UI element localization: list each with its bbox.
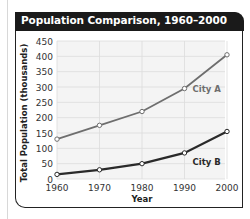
series-label: City A <box>193 84 222 94</box>
y-tick-label: 250 <box>36 98 53 108</box>
data-point-marker <box>140 161 144 165</box>
data-point-marker <box>55 137 59 141</box>
data-point-marker <box>182 151 186 155</box>
x-tick-label: 1970 <box>88 183 111 193</box>
y-tick-label: 450 <box>36 37 53 47</box>
y-tick-label: 350 <box>36 67 53 77</box>
y-tick-label: 300 <box>36 83 53 93</box>
y-tick-label: 100 <box>36 144 53 154</box>
x-axis-label: Year <box>130 194 153 204</box>
data-point-marker <box>182 86 186 90</box>
data-point-marker <box>55 172 59 176</box>
y-tick-label: 150 <box>36 129 53 139</box>
line-chart: 0501001502002503003504004501960197019801… <box>0 0 250 219</box>
y-axis-label: Total Population (thousands) <box>19 44 29 183</box>
y-tick-label: 200 <box>36 113 53 123</box>
series-label: City B <box>193 157 221 167</box>
x-tick-label: 1980 <box>131 183 154 193</box>
y-tick-label: 50 <box>42 159 54 169</box>
data-point-marker <box>140 109 144 113</box>
data-point-marker <box>97 123 101 127</box>
data-point-marker <box>225 53 229 57</box>
data-point-marker <box>225 129 229 133</box>
y-tick-label: 400 <box>36 52 53 62</box>
data-point-marker <box>97 168 101 172</box>
x-tick-label: 1990 <box>173 183 196 193</box>
x-tick-label: 1960 <box>46 183 69 193</box>
x-tick-label: 2000 <box>216 183 239 193</box>
